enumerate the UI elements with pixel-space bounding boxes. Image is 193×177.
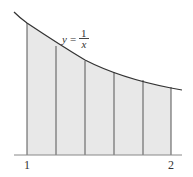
tick-label-1: 1 (24, 158, 30, 173)
tick-label-2: 2 (168, 158, 174, 173)
shaded-area (27, 23, 171, 155)
curve-equation: y = 1 x (62, 28, 89, 49)
fraction-denominator: x (81, 39, 86, 49)
equation-lhs: y (62, 33, 67, 45)
equation-fraction: 1 x (79, 28, 89, 49)
riemann-sum-diagram: y = 1 x 1 2 (0, 0, 193, 177)
equation-equals: = (70, 33, 76, 45)
diagram-graphics (0, 0, 193, 177)
